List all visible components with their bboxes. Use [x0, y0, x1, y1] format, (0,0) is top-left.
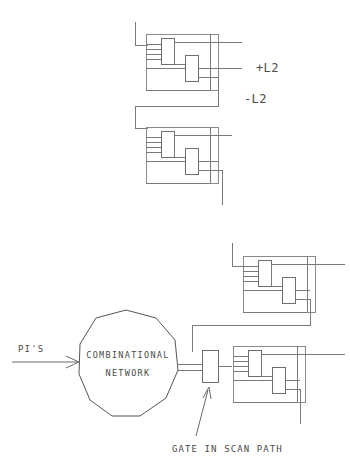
feedback-wire-to-gate [192, 299, 310, 352]
srl-block-top-2 [146, 127, 232, 205]
l1-to-l2-wire [271, 264, 283, 286]
combinational-network: COMBINATIONAL NETWORK [79, 310, 178, 416]
l1-to-l2-wire [174, 42, 186, 64]
srl-block-top-1 [135, 22, 242, 90]
l2-latch-top-2 [185, 148, 198, 174]
l1-latch-top-1 [161, 38, 174, 64]
primary-inputs-arrow: PI'S [12, 344, 79, 368]
scan-path-gate-box [202, 350, 218, 382]
l2-latch-bottom-2 [272, 367, 285, 393]
l2-latch-top-1 [185, 55, 198, 81]
l1-to-l2-wire [261, 354, 273, 376]
l1-latch-bottom-1 [258, 260, 271, 286]
network-label-line2: NETWORK [106, 368, 151, 378]
clock-label-minus-l2: -L2 [244, 92, 267, 106]
scan-chain-wire-1-to-2 [135, 77, 218, 128]
srl-block-bottom-1 [192, 243, 345, 352]
clock-label-plus-l2: +L2 [256, 61, 279, 75]
l1-to-l2-wire [174, 135, 186, 157]
gate-annotation-arrow-line [196, 390, 208, 436]
srl-block-bottom-2 [233, 346, 345, 424]
network-label-line1: COMBINATIONAL [86, 350, 169, 360]
l2-latch-bottom-1 [282, 277, 295, 303]
l1-latch-bottom-2 [248, 350, 261, 376]
primary-inputs-label: PI'S [18, 344, 44, 354]
l1-latch-top-2 [161, 131, 174, 157]
combinational-network-outline [79, 310, 178, 416]
gate-annotation-label: GATE IN SCAN PATH [172, 444, 283, 454]
diagram-canvas: +L2 -L2 [0, 0, 350, 464]
scan-path-diagram: +L2 -L2 [0, 0, 350, 464]
